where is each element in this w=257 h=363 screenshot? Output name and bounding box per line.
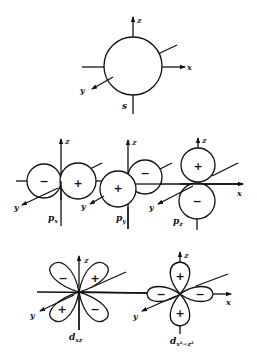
py-y-label: y (80, 201, 87, 211)
dx2z2-y-label: y (132, 311, 139, 321)
px-sign-positive: + (73, 177, 82, 190)
pz-z-label: z (201, 135, 207, 145)
dx2z2-sign-left: − (156, 288, 165, 301)
s-orbital: z x y s (79, 15, 192, 114)
py-sign-negative: − (140, 167, 149, 180)
py-label: py (116, 213, 126, 225)
orbital-diagram: z x y s x − + z y px − + z y py (0, 0, 257, 363)
dxz-label: dxz (69, 332, 83, 343)
dxz-orbital: − + + − z y dxz (29, 255, 150, 343)
dxz-z-label: z (83, 255, 89, 265)
pz-sign-positive: + (193, 160, 202, 173)
dx2z2-orbital: + − − + z x y dx²−z² (132, 250, 231, 347)
dxz-sign-upper-left: − (58, 272, 67, 285)
pz-y-axis-back (212, 163, 238, 176)
s-y-axis-back (158, 45, 177, 54)
pz-label: pz (173, 216, 183, 227)
s-z-label: z (136, 15, 142, 25)
dx2z2-sign-bottom: + (175, 307, 184, 320)
px-z-label: z (64, 136, 70, 146)
dxz-sign-upper-right: + (90, 272, 99, 285)
dx2z2-sign-top: + (175, 270, 184, 283)
s-label: s (122, 101, 127, 111)
s-sphere (104, 37, 162, 95)
py-y-axis-back (160, 163, 172, 169)
py-y-axis (90, 196, 104, 204)
dxz-y-label: y (29, 310, 36, 320)
dx2z2-x-label: x (225, 297, 231, 307)
p-x-label: x (236, 188, 242, 198)
dxz-sign-lower-right: − (90, 303, 99, 316)
px-label: px (48, 213, 58, 224)
s-y-label: y (79, 85, 86, 95)
py-sign-positive: + (113, 182, 122, 195)
dxz-sign-lower-left: + (57, 303, 66, 316)
dx2z2-y-axis-back (196, 274, 228, 286)
px-y-label: y (13, 202, 20, 212)
pz-orbital: + − z y pz (148, 135, 243, 230)
dx2z2-label: dx²−z² (170, 336, 194, 347)
px-orbital: − + z y px (13, 136, 102, 226)
px-sign-negative: − (39, 175, 48, 188)
dx2z2-sign-right: − (195, 288, 204, 301)
py-z-label: z (131, 137, 137, 147)
pz-y-label: y (148, 202, 155, 212)
pz-sign-negative: − (192, 195, 201, 208)
s-x-label: x (186, 62, 192, 72)
dx2z2-z-label: z (183, 250, 189, 260)
